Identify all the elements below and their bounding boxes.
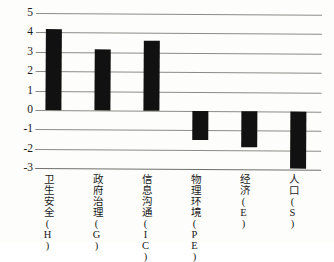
x-label-1: 政府治理(G) (90, 174, 102, 251)
x-label-1-text: 政府治理(G) (90, 174, 102, 251)
x-label-3: 物理环境(PE) (188, 174, 200, 262)
y-tick-neg2: -2 (7, 143, 33, 155)
x-label-0: 卫生安全(H) (41, 174, 53, 251)
bar-0 (45, 29, 61, 110)
plot-area (35, 13, 322, 170)
gridline-3 (36, 52, 322, 55)
x-label-0-text: 卫生安全(H) (41, 174, 53, 251)
x-label-4: 经济(E) (237, 174, 249, 229)
x-label-4-text: 经济(E) (237, 174, 249, 229)
gridline-neg3 (35, 168, 321, 171)
bar-1 (94, 49, 110, 110)
y-tick-4: 4 (7, 26, 33, 38)
gridline-neg2 (35, 149, 321, 152)
y-tick-1: 1 (7, 85, 33, 97)
gridline-5 (36, 13, 322, 16)
y-tick-neg3: -3 (7, 162, 33, 174)
y-tick-5: 5 (7, 7, 33, 19)
y-axis-tick-labels: 5 4 3 2 1 0 -1 -2 -3 (0, 13, 33, 168)
bar-2 (143, 41, 159, 111)
x-label-2-text: 信息沟通(IC) (139, 174, 151, 262)
y-tick-2: 2 (7, 65, 33, 77)
bar-3 (192, 111, 208, 140)
y-tick-neg1: -1 (7, 123, 33, 135)
gridline-2 (36, 71, 322, 74)
y-tick-3: 3 (7, 46, 33, 58)
x-label-3-text: 物理环境(PE) (188, 174, 200, 262)
gridline-4 (36, 32, 322, 35)
bar-4 (241, 111, 257, 147)
gridline-zero (35, 110, 321, 113)
gridline-neg1 (35, 129, 321, 132)
x-label-2: 信息沟通(IC) (139, 174, 151, 262)
x-label-5: 人口(S) (286, 174, 298, 229)
gridline-1 (36, 90, 322, 93)
y-tick-0: 0 (7, 104, 33, 116)
x-label-5-text: 人口(S) (286, 174, 298, 229)
bar-5 (290, 111, 306, 168)
